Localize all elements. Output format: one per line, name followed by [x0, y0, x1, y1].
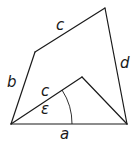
geometry-diagram: c b d c ε a — [0, 0, 137, 143]
label-top-c: c — [56, 16, 65, 34]
label-epsilon: ε — [41, 100, 49, 118]
label-a: a — [60, 125, 69, 143]
inner-side-right — [82, 77, 127, 124]
label-d: d — [120, 54, 130, 72]
side-c-top — [35, 8, 105, 52]
label-inner-c: c — [41, 82, 50, 100]
angle-epsilon-arc — [62, 90, 72, 124]
label-b: b — [7, 73, 17, 91]
